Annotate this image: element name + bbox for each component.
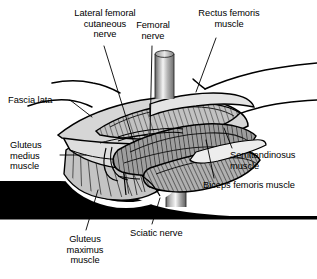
anatomical-figure: Lateral femoral cutaneous nerve Femoral … (0, 0, 317, 279)
label-femoral-nerve: Femoral nerve (126, 20, 180, 41)
skin-edge-upper-right (193, 63, 317, 89)
leader-rectus-femoris (196, 38, 216, 92)
label-gluteus-maximus-muscle: Gluteus maximus muscle (56, 234, 114, 266)
label-rectus-femoris-muscle: Rectus femoris muscle (185, 8, 273, 29)
label-sciatic-nerve: Sciatic nerve (130, 228, 204, 239)
label-biceps-femoris-muscle: Biceps femoris muscle (203, 180, 317, 191)
label-semitendinosus-muscle: Semitendinosus muscle (230, 150, 316, 171)
label-fascia-lata: Fascia lata (8, 95, 72, 106)
label-gluteus-medius-muscle: Gluteus medius muscle (10, 140, 60, 172)
label-superior-gluteal-nerve: Superior gluteal nerve (8, 184, 62, 216)
retractor-post-upper (155, 51, 174, 99)
